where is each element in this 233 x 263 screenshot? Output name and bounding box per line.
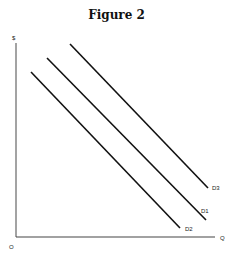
d2-label: D2: [185, 226, 193, 232]
demand-curve-d1: [47, 58, 206, 220]
demand-curve-d3: [70, 44, 208, 188]
y-axis-label: $: [12, 35, 16, 41]
x-axis-label: Q: [220, 235, 225, 241]
demand-diagram: $ Q O D3 D1 D2: [0, 0, 233, 263]
origin-label: O: [9, 244, 14, 250]
d1-label: D1: [201, 208, 209, 214]
d3-label: D3: [212, 185, 220, 191]
demand-curve-d2: [31, 72, 180, 228]
